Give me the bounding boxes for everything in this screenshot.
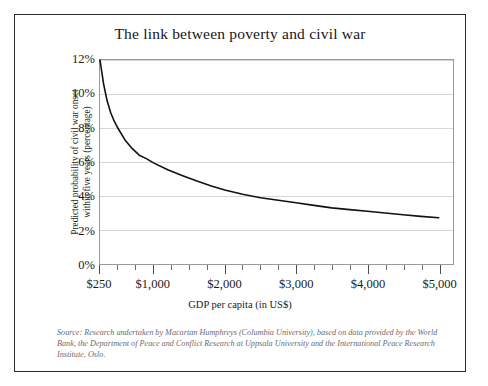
x-tick-major xyxy=(368,265,369,274)
probability-curve xyxy=(100,60,439,218)
x-axis-ticks xyxy=(99,265,454,275)
x-tick-major xyxy=(440,265,441,274)
x-tick-major xyxy=(99,265,100,274)
x-tick-minor xyxy=(260,265,261,270)
figure-frame: The link between poverty and civil war P… xyxy=(14,14,466,372)
x-tick-label: $1,000 xyxy=(118,277,188,292)
y-tick-label: 6% xyxy=(59,155,95,170)
y-tick-label: 4% xyxy=(59,189,95,204)
y-tick-label: 0% xyxy=(59,258,95,273)
x-tick-minor xyxy=(242,265,243,270)
x-tick-label: $4,000 xyxy=(333,277,403,292)
x-tick-minor xyxy=(422,265,423,270)
y-axis-ticks: 12% 10% 8% 6% 4% 2% 0% xyxy=(55,59,95,265)
x-tick-minor xyxy=(332,265,333,270)
x-tick-minor xyxy=(386,265,387,270)
source-note: Source: Research undertaken by Macartan … xyxy=(57,327,443,361)
x-tick-minor xyxy=(207,265,208,270)
y-tick-label: 10% xyxy=(59,86,95,101)
x-tick-minor xyxy=(350,265,351,270)
x-tick-minor xyxy=(278,265,279,270)
plot-area xyxy=(99,59,454,265)
x-tick-minor xyxy=(314,265,315,270)
x-tick-minor xyxy=(189,265,190,270)
x-tick-label: $3,000 xyxy=(261,277,331,292)
y-tick-label: 2% xyxy=(59,223,95,238)
x-tick-major xyxy=(296,265,297,274)
x-axis-label: GDP per capita (in US$) xyxy=(15,299,465,310)
x-tick-minor xyxy=(117,265,118,270)
x-tick-minor xyxy=(404,265,405,270)
x-tick-label: $5,000 xyxy=(405,277,475,292)
y-tick-label: 8% xyxy=(59,120,95,135)
x-tick-minor xyxy=(171,265,172,270)
chart-title: The link between poverty and civil war xyxy=(15,25,465,43)
curve-svg xyxy=(100,60,453,264)
x-tick-minor xyxy=(135,265,136,270)
x-tick-label: $2,000 xyxy=(190,277,260,292)
y-tick-label: 12% xyxy=(59,52,95,67)
x-tick-major xyxy=(225,265,226,274)
x-tick-major xyxy=(153,265,154,274)
